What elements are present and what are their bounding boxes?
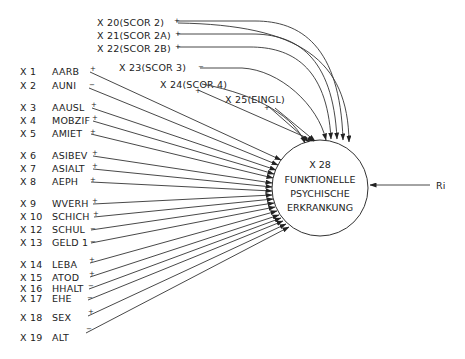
- svg-text:X 18: X 18: [20, 312, 42, 323]
- svg-text:+: +: [90, 65, 96, 73]
- svg-text:X 2: X 2: [20, 80, 36, 91]
- svg-text:ALT: ALT: [52, 332, 69, 343]
- svg-text:AUNI: AUNI: [52, 80, 76, 91]
- target-line-1: FUNKTIONELLE: [285, 174, 356, 185]
- svg-text:X 20(SCOR 2): X 20(SCOR 2): [97, 17, 164, 28]
- svg-text:EHE: EHE: [52, 293, 72, 304]
- svg-text:X 6: X 6: [20, 150, 36, 161]
- residual-path: Ri: [370, 180, 446, 191]
- svg-text:ASIALT: ASIALT: [52, 163, 85, 174]
- svg-text:ATOD: ATOD: [52, 272, 79, 283]
- target-id: X 28: [309, 159, 331, 170]
- svg-text:WVERH: WVERH: [52, 198, 89, 209]
- svg-text:+: +: [92, 149, 98, 157]
- svg-text:MOBZIF: MOBZIF: [52, 115, 90, 126]
- svg-text:X 5: X 5: [20, 128, 36, 139]
- svg-text:X 23(SCOR 3): X 23(SCOR 3): [119, 62, 186, 73]
- svg-text:X 13: X 13: [20, 237, 42, 248]
- target-line-3: ERKRANKUNG: [287, 202, 353, 213]
- svg-text:X 9: X 9: [20, 198, 36, 209]
- svg-text:+: +: [92, 114, 98, 122]
- svg-text:X 17: X 17: [20, 293, 42, 304]
- top-variable-labels: X 20(SCOR 2) X 21(SCOR 2A) X 22(SCOR 2B)…: [97, 17, 285, 105]
- target-line-2: PSYCHISCHE: [290, 188, 349, 199]
- svg-text:X 22(SCOR 2B): X 22(SCOR 2B): [97, 43, 171, 54]
- svg-text:−: −: [89, 81, 95, 89]
- svg-text:X 7: X 7: [20, 163, 36, 174]
- residual-label: Ri: [436, 180, 446, 191]
- svg-text:X 8: X 8: [20, 176, 36, 187]
- svg-text:X 4: X 4: [20, 115, 36, 126]
- left-variable-labels: X 1AARB X 2AUNI X 3AAUSL X 4MOBZIF X 5AM…: [20, 66, 90, 343]
- svg-text:AAUSL: AAUSL: [52, 102, 85, 113]
- svg-text:−: −: [88, 282, 94, 290]
- svg-text:X 14: X 14: [20, 259, 42, 270]
- svg-text:LEBA: LEBA: [52, 259, 77, 270]
- svg-text:X 1: X 1: [20, 66, 36, 77]
- svg-text:X 24(SCOR 4): X 24(SCOR 4): [160, 79, 227, 90]
- svg-text:X 3: X 3: [20, 102, 36, 113]
- svg-text:SCHICH: SCHICH: [52, 211, 90, 222]
- svg-text:AMIET: AMIET: [52, 128, 82, 139]
- svg-text:ASIBEV: ASIBEV: [52, 150, 88, 161]
- svg-text:GELD 1: GELD 1: [52, 237, 88, 248]
- svg-text:X 19: X 19: [20, 332, 42, 343]
- target-node: X 28 FUNKTIONELLE PSYCHISCHE ERKRANKUNG: [272, 140, 368, 236]
- svg-text:+: +: [90, 176, 96, 184]
- path-diagram: X 28 FUNKTIONELLE PSYCHISCHE ERKRANKUNG …: [0, 0, 465, 359]
- svg-text:SEX: SEX: [52, 312, 71, 323]
- svg-text:SCHUL: SCHUL: [52, 224, 86, 235]
- svg-text:X 10: X 10: [20, 211, 42, 222]
- svg-text:X 15: X 15: [20, 272, 42, 283]
- svg-text:AEPH: AEPH: [52, 176, 78, 187]
- svg-text:+: +: [91, 101, 97, 109]
- svg-text:−: −: [198, 63, 204, 71]
- svg-text:X 12: X 12: [20, 224, 42, 235]
- svg-text:AARB: AARB: [52, 66, 79, 77]
- svg-text:X 21(SCOR 2A): X 21(SCOR 2A): [97, 30, 171, 41]
- left-arrows: [86, 72, 289, 333]
